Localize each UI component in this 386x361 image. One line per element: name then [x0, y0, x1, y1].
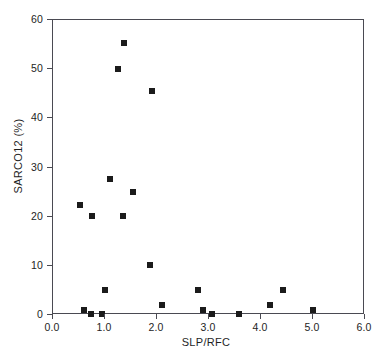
data-point [102, 287, 108, 293]
data-point [310, 307, 316, 313]
plot-area [52, 19, 364, 314]
x-axis-tick-label: 6.0 [356, 321, 371, 333]
y-axis-tick [47, 167, 52, 168]
data-point [280, 287, 286, 293]
figure-caption [4, 353, 382, 361]
x-axis-tick-label: 4.0 [252, 321, 267, 333]
y-axis-title-text: SARCO12 (%) [12, 119, 24, 194]
y-axis-tick [47, 68, 52, 69]
x-axis-tick-label: 2.0 [148, 321, 163, 333]
scatter-plot-figure: 0.01.02.03.04.05.06.00102030405060 SLP/R… [0, 0, 386, 361]
y-axis-tick [47, 314, 52, 315]
data-point [115, 66, 121, 72]
y-axis-tick [47, 216, 52, 217]
y-axis-tick [47, 265, 52, 266]
data-point [130, 189, 136, 195]
data-point [200, 307, 206, 313]
y-axis-tick [47, 117, 52, 118]
x-axis-title-text: SLP/RFC [182, 336, 231, 348]
x-axis-tick [312, 314, 313, 319]
y-axis-title: SARCO12 (%) [12, 76, 24, 236]
data-point [120, 213, 126, 219]
x-axis-tick [260, 314, 261, 319]
x-axis-tick [52, 314, 53, 319]
data-point [236, 311, 242, 317]
data-point [121, 40, 127, 46]
data-point [267, 302, 273, 308]
y-axis-tick-label: 0 [37, 308, 43, 320]
x-axis-tick [104, 314, 105, 319]
y-axis-tick-label: 30 [31, 161, 43, 173]
data-point [159, 302, 165, 308]
x-axis-tick-label: 3.0 [200, 321, 215, 333]
x-axis-tick [364, 314, 365, 319]
y-axis-tick-label: 40 [31, 111, 43, 123]
y-axis-tick-label: 20 [31, 210, 43, 222]
y-axis-tick-label: 50 [31, 62, 43, 74]
data-point [77, 202, 83, 208]
x-axis-tick [208, 314, 209, 319]
y-axis-tick [47, 19, 52, 20]
y-axis-tick-label: 60 [31, 13, 43, 25]
x-axis-tick-label: 5.0 [304, 321, 319, 333]
data-point [209, 311, 215, 317]
data-point [81, 307, 87, 313]
data-point [147, 262, 153, 268]
data-points-layer [53, 20, 363, 313]
data-point [89, 213, 95, 219]
x-axis-tick-label: 1.0 [96, 321, 111, 333]
x-axis-title: SLP/RFC [0, 336, 386, 348]
data-point [88, 311, 94, 317]
y-axis-tick-label: 10 [31, 259, 43, 271]
data-point [149, 88, 155, 94]
x-axis-tick [156, 314, 157, 319]
data-point [195, 287, 201, 293]
x-axis-tick-label: 0.0 [44, 321, 59, 333]
data-point [107, 176, 113, 182]
